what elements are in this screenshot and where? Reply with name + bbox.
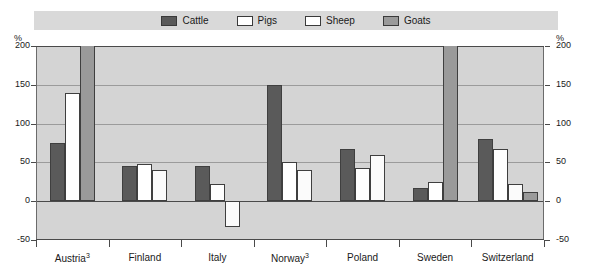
x-tick-1 bbox=[109, 240, 110, 247]
x-axis-label-text: Finland bbox=[128, 252, 161, 263]
x-axis-label-austria: Austria3 bbox=[36, 252, 109, 264]
y-tick-mark-right-100 bbox=[545, 124, 550, 125]
bar-poland-cattle[interactable] bbox=[340, 149, 355, 201]
chart-legend: CattlePigsSheepGoats bbox=[34, 11, 558, 30]
x-axis-label-sweden: Sweden bbox=[399, 252, 472, 263]
x-tick-3 bbox=[254, 240, 255, 247]
x-tick-2 bbox=[181, 240, 182, 247]
x-axis-label-text: Austria bbox=[55, 253, 86, 264]
y-tick-label-left-50: 50 bbox=[2, 156, 30, 166]
y-tick-label-right-150: 150 bbox=[556, 79, 584, 89]
x-axis-label-text: Poland bbox=[347, 252, 378, 263]
y-tick-mark-right-150 bbox=[545, 85, 550, 86]
y-tick-mark-right-50 bbox=[545, 162, 550, 163]
legend-swatch-goats bbox=[383, 16, 399, 26]
x-axis-label-text: Norway bbox=[271, 253, 305, 264]
y-tick-label-right-200: 200 bbox=[556, 40, 584, 50]
chart-root: CattlePigsSheepGoats % % 200150100500-50… bbox=[0, 0, 592, 274]
bar-group-sweden bbox=[399, 46, 472, 240]
y-tick-label-right-0: 0 bbox=[556, 195, 584, 205]
bar-poland-pigs[interactable] bbox=[355, 168, 370, 201]
y-tick-label-left-200: 200 bbox=[2, 40, 30, 50]
bar-sweden-goats[interactable] bbox=[443, 46, 458, 201]
y-tick-label-right--50: -50 bbox=[556, 234, 584, 244]
legend-item-goats[interactable]: Goats bbox=[383, 16, 431, 26]
legend-label-goats: Goats bbox=[404, 16, 431, 26]
legend-swatch-sheep bbox=[305, 16, 321, 26]
x-tick-6 bbox=[471, 240, 472, 247]
x-axis-label-text: Sweden bbox=[417, 252, 453, 263]
bar-group-italy bbox=[181, 46, 254, 240]
bar-norway-cattle[interactable] bbox=[267, 85, 282, 201]
legend-label-cattle: Cattle bbox=[182, 16, 208, 26]
bar-group-norway bbox=[254, 46, 327, 240]
bar-austria-cattle[interactable] bbox=[50, 143, 65, 201]
bar-switzerland-sheep[interactable] bbox=[508, 184, 523, 201]
x-axis-label-italy: Italy bbox=[181, 252, 254, 263]
x-axis-label-finland: Finland bbox=[109, 252, 182, 263]
x-tick-4 bbox=[326, 240, 327, 247]
y-tick-mark-right-0 bbox=[545, 201, 550, 202]
bar-sweden-pigs[interactable] bbox=[428, 182, 443, 201]
y-tick-mark-right--50 bbox=[545, 240, 550, 241]
legend-item-sheep[interactable]: Sheep bbox=[305, 16, 355, 26]
x-axis-label-footnote: 3 bbox=[305, 252, 309, 259]
bar-group-finland bbox=[109, 46, 182, 240]
bar-austria-pigs[interactable] bbox=[65, 93, 80, 202]
x-tick-0 bbox=[36, 240, 37, 247]
bar-finland-cattle[interactable] bbox=[122, 166, 137, 201]
bar-italy-sheep[interactable] bbox=[225, 201, 240, 227]
x-tick-end bbox=[544, 240, 545, 247]
bar-finland-sheep[interactable] bbox=[152, 170, 167, 201]
y-tick-label-left--50: -50 bbox=[2, 234, 30, 244]
bar-sweden-cattle[interactable] bbox=[413, 188, 428, 201]
bar-group-austria bbox=[36, 46, 109, 240]
bar-norway-pigs[interactable] bbox=[282, 162, 297, 201]
y-tick-label-left-0: 0 bbox=[2, 195, 30, 205]
x-axis-label-norway: Norway3 bbox=[254, 252, 327, 264]
bar-group-switzerland bbox=[471, 46, 544, 240]
x-axis-label-footnote: 3 bbox=[86, 252, 90, 259]
y-tick-label-right-100: 100 bbox=[556, 118, 584, 128]
x-axis-label-poland: Poland bbox=[326, 252, 399, 263]
bar-italy-pigs[interactable] bbox=[210, 184, 225, 201]
x-axis-label-switzerland: Switzerland bbox=[471, 252, 544, 263]
y-tick-mark-right-200 bbox=[545, 46, 550, 47]
legend-item-cattle[interactable]: Cattle bbox=[161, 16, 208, 26]
bar-switzerland-goats[interactable] bbox=[523, 192, 538, 201]
bar-switzerland-pigs[interactable] bbox=[493, 149, 508, 201]
y-tick-label-left-100: 100 bbox=[2, 118, 30, 128]
bar-groups bbox=[36, 46, 544, 240]
bar-switzerland-cattle[interactable] bbox=[478, 139, 493, 201]
x-axis-label-text: Switzerland bbox=[482, 252, 534, 263]
bar-group-poland bbox=[326, 46, 399, 240]
x-tick-5 bbox=[399, 240, 400, 247]
legend-label-pigs: Pigs bbox=[258, 16, 277, 26]
legend-swatch-pigs bbox=[237, 16, 253, 26]
bar-finland-pigs[interactable] bbox=[137, 164, 152, 201]
bar-norway-sheep[interactable] bbox=[297, 170, 312, 201]
legend-item-pigs[interactable]: Pigs bbox=[237, 16, 277, 26]
y-tick-label-right-50: 50 bbox=[556, 156, 584, 166]
y-tick-label-left-150: 150 bbox=[2, 79, 30, 89]
legend-swatch-cattle bbox=[161, 16, 177, 26]
legend-label-sheep: Sheep bbox=[326, 16, 355, 26]
bar-italy-cattle[interactable] bbox=[195, 166, 210, 201]
bar-austria-goats[interactable] bbox=[80, 46, 95, 201]
bar-poland-sheep[interactable] bbox=[370, 155, 385, 202]
x-axis-label-text: Italy bbox=[208, 252, 226, 263]
